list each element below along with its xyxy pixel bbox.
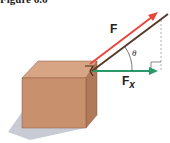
angle-arc — [125, 47, 132, 71]
rope — [92, 14, 168, 71]
angle-label: θ — [132, 48, 136, 58]
component-label-sub: x — [129, 79, 135, 90]
force-label: F — [110, 22, 117, 36]
box-top — [22, 61, 97, 78]
force-arrow — [90, 17, 152, 64]
box-front — [22, 78, 86, 128]
force-diagram — [0, 0, 170, 143]
component-label: Fx — [122, 74, 135, 88]
component-arrowhead — [149, 67, 158, 75]
